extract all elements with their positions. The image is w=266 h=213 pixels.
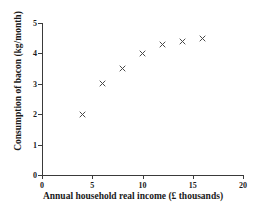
scatter-chart-figure: 012345 05101520 Annual household real in… bbox=[0, 0, 266, 213]
data-point-marker bbox=[79, 111, 86, 118]
x-axis-tick bbox=[143, 175, 144, 179]
x-axis-tick-label: 0 bbox=[40, 181, 44, 190]
y-axis-tick bbox=[38, 145, 42, 146]
data-point-marker bbox=[139, 50, 146, 57]
y-axis-tick-label: 4 bbox=[33, 49, 37, 58]
x-axis-tick-label: 5 bbox=[90, 181, 94, 190]
data-point-marker bbox=[99, 80, 106, 87]
y-axis-tick bbox=[38, 53, 42, 54]
x-axis-tick bbox=[243, 175, 244, 179]
x-axis-tick-label: 20 bbox=[239, 181, 247, 190]
data-point-marker bbox=[159, 41, 166, 48]
x-axis-tick-label: 10 bbox=[139, 181, 147, 190]
y-axis-tick-label: 2 bbox=[33, 110, 37, 119]
y-axis-tick-label: 5 bbox=[33, 19, 37, 28]
x-axis-title: Annual household real income (£ thousand… bbox=[0, 191, 266, 201]
data-point-marker bbox=[119, 65, 126, 72]
y-axis-tick-label: 1 bbox=[33, 140, 37, 149]
plot-area: 012345 05101520 bbox=[42, 23, 243, 175]
x-axis-tick bbox=[193, 175, 194, 179]
y-axis-tick bbox=[38, 23, 42, 24]
y-axis-tick-label: 3 bbox=[33, 79, 37, 88]
y-axis-line bbox=[42, 23, 43, 175]
x-axis-tick bbox=[92, 175, 93, 179]
y-axis-tick bbox=[38, 114, 42, 115]
y-axis-tick-label: 0 bbox=[33, 171, 37, 180]
x-axis-tick bbox=[42, 175, 43, 179]
data-point-marker bbox=[179, 38, 186, 45]
x-axis-tick-label: 15 bbox=[189, 181, 197, 190]
y-axis-tick bbox=[38, 84, 42, 85]
data-point-marker bbox=[199, 35, 206, 42]
y-axis-title: Consumption of bacon (kg/month) bbox=[13, 1, 23, 161]
